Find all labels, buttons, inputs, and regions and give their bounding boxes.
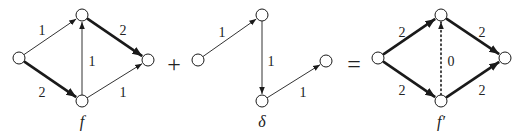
edge-label: 2 [479, 83, 486, 98]
flow-decomposition-diagram: 12211f111δ22220f′+= [0, 0, 519, 136]
edge-delta-b-t [267, 65, 320, 98]
edge-label: 1 [39, 23, 46, 38]
node-f_prime-b [435, 95, 447, 107]
node-f_prime-a [435, 9, 447, 21]
graph-caption-delta: δ [258, 113, 266, 130]
edge-label: 1 [219, 25, 226, 40]
plus-operator: + [167, 51, 181, 77]
edge-label: 1 [268, 54, 275, 69]
node-f_prime-t [499, 52, 511, 64]
node-f-a [76, 9, 88, 21]
node-delta-a [256, 9, 268, 21]
node-f_prime-s [372, 52, 384, 64]
edge-label: 1 [89, 54, 96, 69]
edge-f-s-b [24, 61, 76, 97]
edge-f-s-a [24, 19, 76, 55]
node-delta-b [256, 95, 268, 107]
node-f-b [76, 95, 88, 107]
edge-f_prime-a-t [446, 18, 499, 54]
node-delta-s [192, 54, 204, 66]
node-f-t [142, 54, 154, 66]
edge-label: 1 [120, 85, 127, 100]
edge-f-a-t [87, 18, 142, 56]
graph-caption-f: f [80, 113, 87, 131]
equals-operator: = [347, 51, 361, 77]
node-delta-t [320, 55, 332, 67]
graph-caption-f_prime: f′ [437, 113, 445, 131]
edge-f_prime-s-b [383, 61, 435, 97]
edge-label: 0 [448, 54, 455, 69]
edge-f_prime-s-a [383, 19, 435, 55]
edge-label: 2 [479, 25, 486, 40]
edge-delta-s-a [203, 19, 256, 57]
edge-label: 2 [39, 85, 46, 100]
edge-label: 2 [399, 83, 406, 98]
edge-label: 2 [120, 23, 127, 38]
edge-label: 1 [300, 85, 307, 100]
diagram-svg: 12211f111δ22220f′+= [0, 0, 519, 136]
node-f-s [13, 52, 25, 64]
edge-label: 2 [399, 25, 406, 40]
